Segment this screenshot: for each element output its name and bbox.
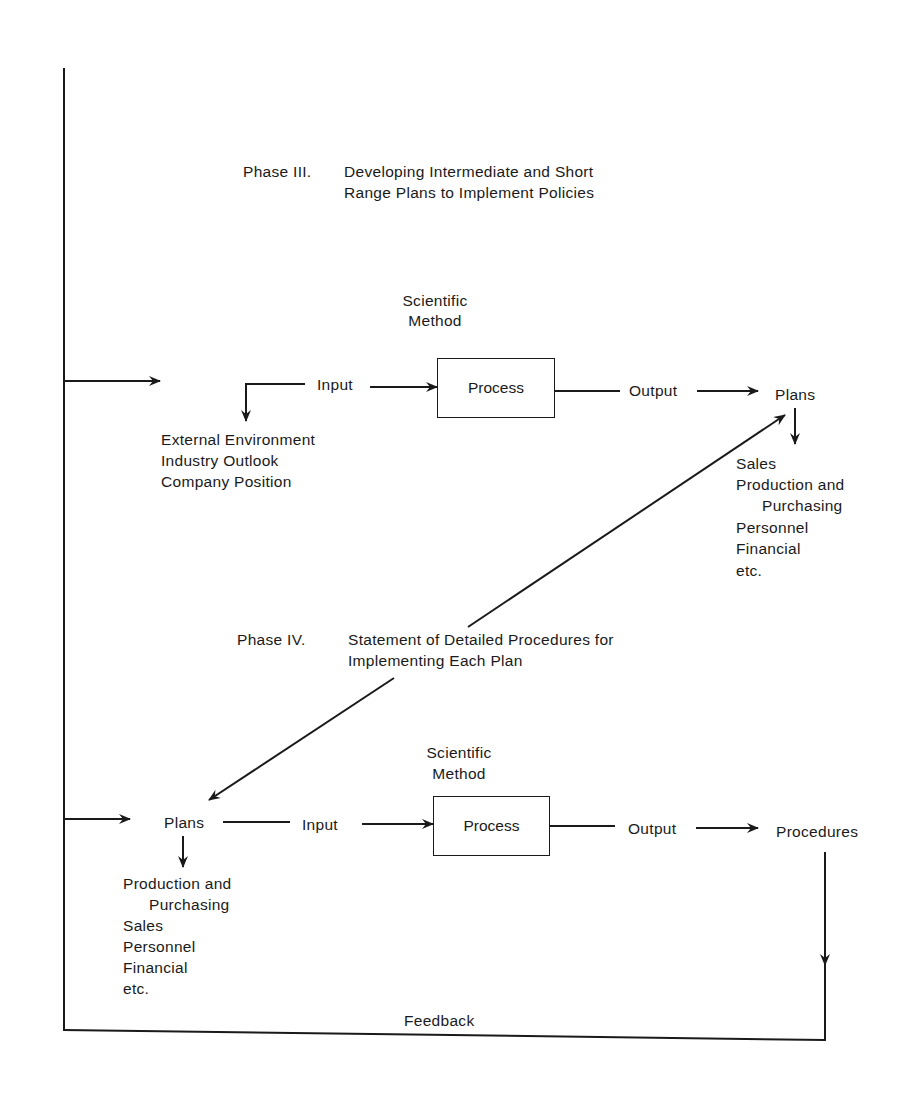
phase3-process-label: Process bbox=[468, 379, 524, 397]
source-item-personnel: Personnel bbox=[123, 936, 196, 957]
feedback-label: Feedback bbox=[404, 1010, 474, 1031]
phase4-process-label: Process bbox=[464, 817, 520, 835]
phase3-process-box: Process bbox=[437, 358, 555, 418]
phase4-input-label: Input bbox=[302, 814, 338, 835]
phase4-plans-label: Plans bbox=[164, 812, 204, 833]
phase3-title-line1: Developing Intermediate and Short bbox=[344, 161, 593, 182]
phase3-title-line2: Range Plans to Implement Policies bbox=[344, 182, 594, 203]
source-item-purchasing: Purchasing bbox=[149, 894, 230, 915]
feedback-bottom-line bbox=[63, 1030, 825, 1040]
source-item-production: Production and bbox=[123, 873, 231, 894]
phase4-title-line1: Statement of Detailed Procedures for bbox=[348, 629, 614, 650]
phase4-title-line2: Implementing Each Plan bbox=[348, 650, 523, 671]
input-item-company-position: Company Position bbox=[161, 471, 292, 492]
source-item-financial: Financial bbox=[123, 957, 188, 978]
phase4-process-box: Process bbox=[433, 796, 550, 856]
phase3-label: Phase III. bbox=[243, 161, 311, 182]
phase4-output-label: Output bbox=[628, 818, 676, 839]
phase4-procedures-label: Procedures bbox=[776, 821, 858, 842]
source-item-sales: Sales bbox=[123, 915, 163, 936]
phase3-input-branch-line bbox=[246, 384, 305, 420]
plan-item-purchasing: Purchasing bbox=[762, 495, 843, 516]
phase4-method-line2: Method bbox=[423, 763, 495, 784]
phase4-method-line1: Scientific bbox=[423, 742, 495, 763]
plan-item-production: Production and bbox=[736, 474, 844, 495]
input-item-external-environment: External Environment bbox=[161, 429, 315, 450]
diagonal-lower-arrow bbox=[209, 678, 394, 800]
source-item-etc: etc. bbox=[123, 978, 149, 999]
phase3-method-line2: Method bbox=[400, 310, 470, 331]
plan-item-personnel: Personnel bbox=[736, 517, 809, 538]
plan-item-sales: Sales bbox=[736, 453, 776, 474]
input-item-industry-outlook: Industry Outlook bbox=[161, 450, 279, 471]
phase4-label: Phase IV. bbox=[237, 629, 305, 650]
phase3-method-line1: Scientific bbox=[400, 290, 470, 311]
phase3-output-label: Output bbox=[629, 380, 677, 401]
plan-item-financial: Financial bbox=[736, 538, 801, 559]
plan-item-etc: etc. bbox=[736, 560, 762, 581]
phase3-plans-label: Plans bbox=[775, 384, 815, 405]
phase3-input-label: Input bbox=[317, 374, 353, 395]
